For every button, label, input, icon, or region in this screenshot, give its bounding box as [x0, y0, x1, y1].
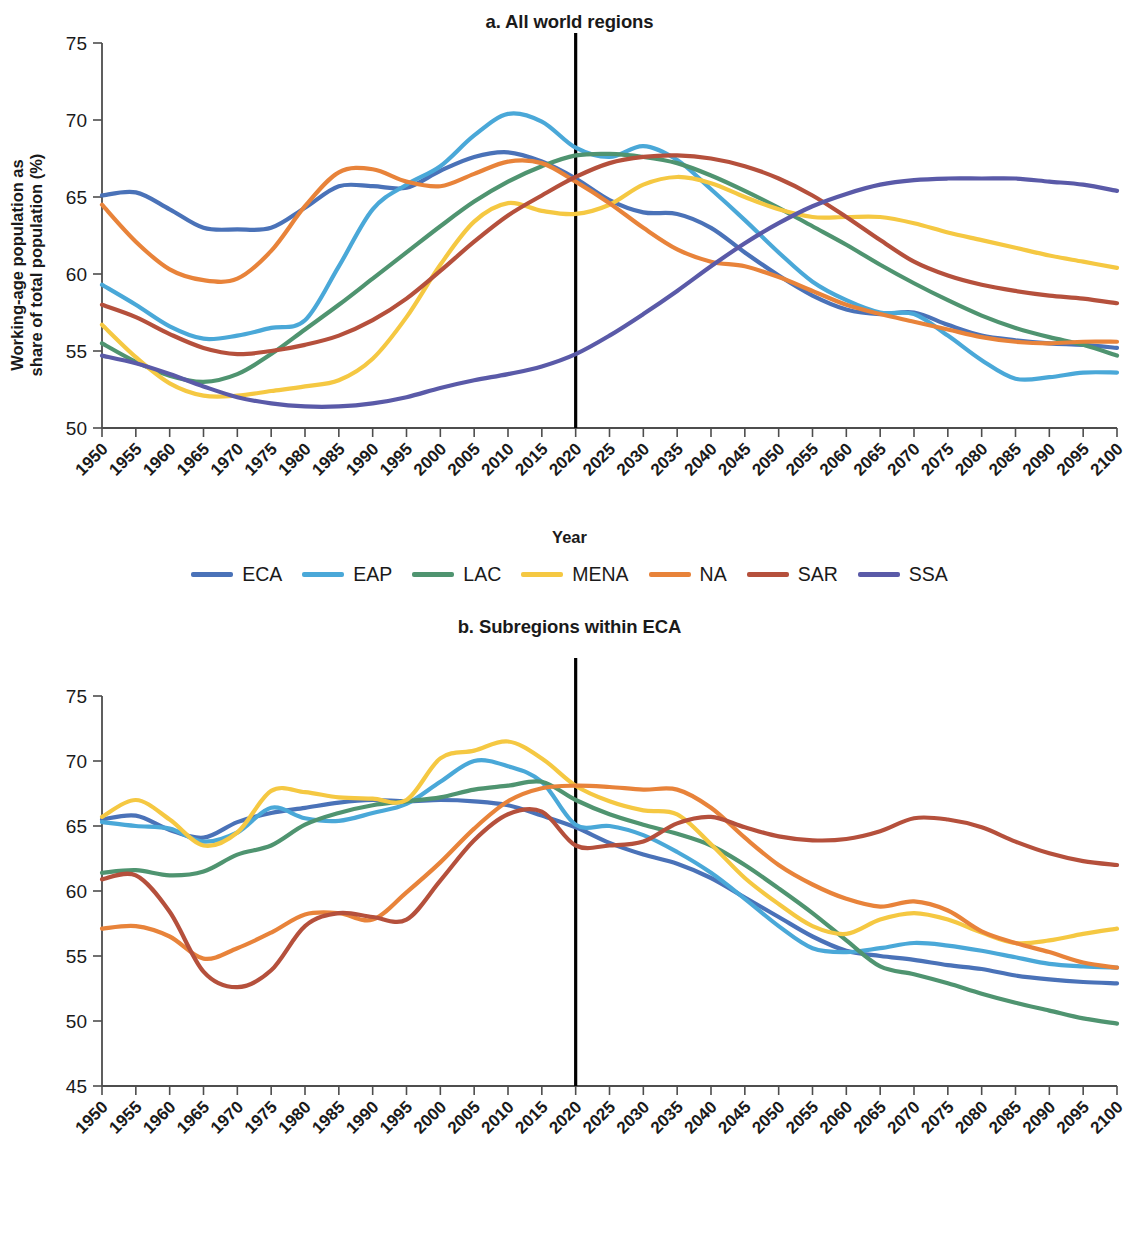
x-tick-label: 2030: [613, 439, 653, 479]
x-tick-label: 2095: [1053, 439, 1093, 479]
x-tick-label: 1965: [173, 439, 213, 479]
legend-item-eap[interactable]: EAP: [302, 563, 392, 586]
series-line-ssa: [102, 178, 1117, 407]
legend-label: SSA: [909, 563, 948, 586]
legend-item-sar[interactable]: SAR: [747, 563, 838, 586]
x-tick-label: 2045: [714, 439, 754, 479]
x-tick-label: 2000: [410, 1097, 450, 1137]
y-tick-label: 75: [66, 686, 87, 707]
y-tick-label: 75: [66, 33, 87, 54]
x-tick-label: 2100: [1087, 439, 1127, 479]
legend-swatch-icon: [191, 572, 233, 577]
x-tick-label: 2015: [511, 1097, 551, 1137]
legend-label: MENA: [572, 563, 628, 586]
y-tick-label: 45: [66, 1076, 87, 1097]
panel-a-legend: ECAEAPLACMENANASARSSA: [0, 563, 1139, 586]
y-tick-label: 70: [66, 751, 87, 772]
x-tick-label: 2050: [748, 1097, 788, 1137]
x-tick-label: 1995: [376, 439, 416, 479]
x-tick-label: 2060: [816, 1097, 856, 1137]
x-tick-label: 1990: [342, 439, 382, 479]
x-tick-label: 2035: [647, 1097, 687, 1137]
legend-label: SAR: [798, 563, 838, 586]
x-tick-label: 1960: [139, 439, 179, 479]
x-tick-label: 1955: [105, 439, 145, 479]
panel-b-plot: 4550556065707519501955196019651970197519…: [0, 638, 1139, 1148]
legend-item-eca[interactable]: ECA: [191, 563, 282, 586]
chart-panel-b: b. Subregions within ECA Working-age pop…: [0, 608, 1139, 1242]
x-tick-label: 2040: [681, 439, 721, 479]
x-tick-label: 2075: [917, 1097, 957, 1137]
x-tick-label: 2095: [1053, 1097, 1093, 1137]
x-tick-label: 1985: [308, 439, 348, 479]
panel-a-plot: 5055606570751950195519601965197019751980…: [0, 33, 1139, 553]
y-tick-label: 65: [66, 816, 87, 837]
x-tick-label: 1955: [105, 1097, 145, 1137]
legend-swatch-icon: [747, 572, 789, 577]
x-tick-label: 2030: [613, 1097, 653, 1137]
x-tick-label: 1960: [139, 1097, 179, 1137]
x-tick-label: 2005: [444, 439, 484, 479]
x-tick-label: 2045: [714, 1097, 754, 1137]
y-tick-label: 50: [66, 418, 87, 439]
chart-panel-a: a. All world regions Working-age populat…: [0, 0, 1139, 610]
y-tick-label: 70: [66, 110, 87, 131]
x-tick-label: 1985: [308, 1097, 348, 1137]
series-line-eca: [102, 152, 1117, 348]
x-tick-label: 1975: [241, 439, 281, 479]
series-line-sar: [102, 155, 1117, 354]
legend-item-lac[interactable]: LAC: [412, 563, 501, 586]
x-tick-label: 1995: [376, 1097, 416, 1137]
x-tick-label: 2065: [850, 1097, 890, 1137]
y-tick-label: 55: [66, 341, 87, 362]
panel-b-svg: 4550556065707519501955196019651970197519…: [0, 638, 1139, 1148]
x-tick-label: 1970: [207, 439, 247, 479]
x-tick-label: 2090: [1019, 1097, 1059, 1137]
y-tick-label: 60: [66, 881, 87, 902]
x-tick-label: 2080: [951, 1097, 991, 1137]
x-tick-label: 1975: [241, 1097, 281, 1137]
x-tick-label: 2060: [816, 439, 856, 479]
x-tick-label: 1980: [275, 1097, 315, 1137]
x-tick-label: 2010: [478, 1097, 518, 1137]
x-tick-label: 2020: [545, 439, 585, 479]
legend-item-ssa[interactable]: SSA: [858, 563, 948, 586]
x-tick-label: 2080: [951, 439, 991, 479]
legend-swatch-icon: [521, 572, 563, 577]
x-tick-label: 2010: [478, 439, 518, 479]
legend-swatch-icon: [412, 572, 454, 577]
x-tick-label: 2035: [647, 439, 687, 479]
x-tick-label: 1980: [275, 439, 315, 479]
legend-swatch-icon: [649, 572, 691, 577]
x-tick-label: 1965: [173, 1097, 213, 1137]
legend-label: LAC: [463, 563, 501, 586]
x-tick-label: 2065: [850, 439, 890, 479]
x-tick-label: 2040: [681, 1097, 721, 1137]
x-tick-label: 2055: [782, 1097, 822, 1137]
y-tick-label: 55: [66, 946, 87, 967]
x-tick-label: 2025: [579, 439, 619, 479]
x-tick-label: 2050: [748, 439, 788, 479]
x-tick-label: 1950: [72, 439, 112, 479]
x-tick-label: 2085: [985, 1097, 1025, 1137]
x-tick-label: 2015: [511, 439, 551, 479]
legend-item-mena[interactable]: MENA: [521, 563, 628, 586]
x-tick-label: 2070: [884, 439, 924, 479]
legend-label: EAP: [353, 563, 392, 586]
x-tick-label: 2000: [410, 439, 450, 479]
panel-b-title: b. Subregions within ECA: [0, 608, 1139, 638]
x-tick-label: 2025: [579, 1097, 619, 1137]
x-tick-label: 2055: [782, 439, 822, 479]
panel-a-svg: 5055606570751950195519601965197019751980…: [0, 33, 1139, 553]
x-tick-label: 2100: [1087, 1097, 1127, 1137]
legend-label: NA: [700, 563, 727, 586]
panel-a-x-axis-label: Year: [0, 528, 1139, 547]
x-tick-label: 2020: [545, 1097, 585, 1137]
legend-item-na[interactable]: NA: [649, 563, 727, 586]
x-tick-label: 1990: [342, 1097, 382, 1137]
panel-a-title: a. All world regions: [0, 0, 1139, 33]
series-line-central-asia: [102, 809, 1117, 987]
x-tick-label: 2085: [985, 439, 1025, 479]
x-tick-label: 2070: [884, 1097, 924, 1137]
series-line-na: [102, 160, 1117, 343]
